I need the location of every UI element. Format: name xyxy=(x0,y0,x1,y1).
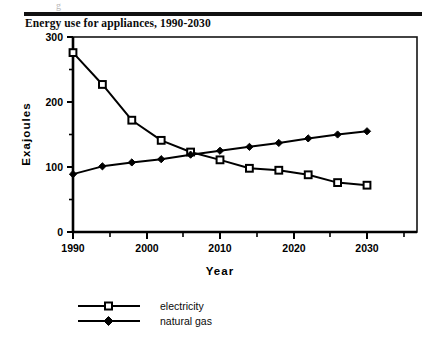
marker-filled-diamond xyxy=(334,131,341,138)
x-tick-label: 2000 xyxy=(135,242,159,254)
figure-page: g Energy use for appliances, 1990-2030 xyxy=(0,0,427,338)
y-axis-title: Exajoules xyxy=(20,102,32,166)
marker-filled-diamond xyxy=(305,135,312,142)
x-tick-label: 1990 xyxy=(61,242,85,254)
marker-filled-diamond xyxy=(158,156,165,163)
x-tick-label: 2010 xyxy=(208,242,232,254)
marker-open-square xyxy=(217,156,224,163)
chart-svg: 300 200 100 0 Exajoules xyxy=(0,0,427,338)
x-tick-label: 2030 xyxy=(355,242,379,254)
marker-open-square xyxy=(364,182,371,189)
x-tick-label: 2020 xyxy=(282,242,306,254)
marker-open-square xyxy=(158,137,165,144)
chart-legend: electricity natural gas xyxy=(78,300,212,327)
y-tick-label: 300 xyxy=(45,31,63,43)
marker-open-square xyxy=(305,171,312,178)
marker-open-square xyxy=(70,49,77,56)
marker-filled-diamond xyxy=(275,139,282,146)
marker-open-square xyxy=(334,179,341,186)
plot-frame xyxy=(73,37,417,232)
series-electricity xyxy=(70,49,371,188)
series-layer xyxy=(69,49,370,188)
marker-open-square xyxy=(275,167,282,174)
marker-filled-diamond xyxy=(363,128,370,135)
y-tick-label: 200 xyxy=(45,96,63,108)
marker-open-square xyxy=(128,117,135,124)
y-tick-label: 0 xyxy=(57,226,63,238)
legend-marker-open-square xyxy=(105,303,112,310)
marker-open-square xyxy=(99,81,106,88)
series-natural-gas xyxy=(69,128,370,178)
x-axis-title: Year xyxy=(206,265,235,277)
y-tick-label: 100 xyxy=(45,161,63,173)
marker-filled-diamond xyxy=(216,147,223,154)
legend-label-electricity: electricity xyxy=(160,300,205,312)
line-chart: 300 200 100 0 Exajoules xyxy=(0,0,427,338)
marker-filled-diamond xyxy=(69,171,76,178)
legend-marker-filled-diamond xyxy=(104,317,113,326)
marker-filled-diamond xyxy=(99,163,106,170)
legend-label-natural-gas: natural gas xyxy=(160,315,212,327)
y-tick-labels: 300 200 100 0 xyxy=(45,31,63,238)
marker-filled-diamond xyxy=(246,143,253,150)
x-tick-labels: 1990 2000 2010 2020 2030 xyxy=(61,242,379,254)
marker-open-square xyxy=(246,165,253,172)
marker-filled-diamond xyxy=(128,159,135,166)
legend-item-electricity: electricity xyxy=(78,300,205,312)
legend-item-natural-gas: natural gas xyxy=(78,315,212,327)
